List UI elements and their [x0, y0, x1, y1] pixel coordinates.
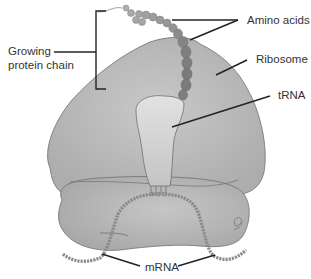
label-trna: tRNA	[278, 89, 306, 101]
label-mrna: mRNA	[145, 261, 179, 273]
label-growing-protein-chain-line2: protein chain	[8, 59, 74, 71]
label-amino-acids: Amino acids	[247, 14, 310, 26]
mrna-leader-right	[178, 255, 215, 266]
ribosome-translation-diagram: Growing protein chain Amino acids Riboso…	[0, 0, 311, 279]
label-growing-protein-chain-line1: Growing	[8, 45, 51, 57]
amino-acids-leader-2	[190, 20, 238, 40]
label-ribosome: Ribosome	[256, 53, 308, 65]
mrna-leader-left	[102, 254, 140, 266]
ribosome-small-subunit	[59, 177, 250, 251]
